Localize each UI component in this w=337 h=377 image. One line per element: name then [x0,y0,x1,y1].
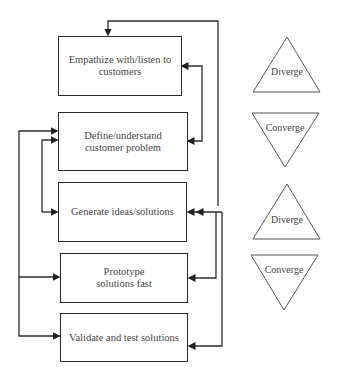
step-label: Empathize with/listen to customers [65,54,175,78]
connector-generate-to-validate [189,212,222,346]
phase-label-diverge-2: Diverge [262,214,312,225]
step-label: Generate ideas/solutions [71,206,174,218]
connector-define-to-empathize [182,66,202,100]
step-validate: Validate and test solutions [60,313,188,362]
step-empathize: Empathize with/listen to customers [58,36,182,96]
step-prototype: Prototype solutions fast [60,253,188,303]
diverge-triangle-2 [253,184,320,239]
step-define: Define/understand customer problem [58,112,188,171]
connector-generate-to-define [42,140,57,212]
phase-label-diverge-1: Diverge [262,66,312,77]
step-label: Define/understand customer problem [75,130,171,154]
diverge-triangle-1 [253,37,320,92]
connector-prototype-to-define [19,131,57,277]
connector-generate-to-prototype [189,212,216,278]
connector-empathize-to-define [188,100,202,141]
step-generate: Generate ideas/solutions [58,182,187,242]
connector-prototype-to-validate [19,277,59,336]
phase-label-converge-2: Converge [259,264,309,275]
step-label: Prototype solutions fast [87,266,161,290]
phase-label-converge-1: Converge [260,122,310,133]
step-label: Validate and test solutions [69,332,179,344]
